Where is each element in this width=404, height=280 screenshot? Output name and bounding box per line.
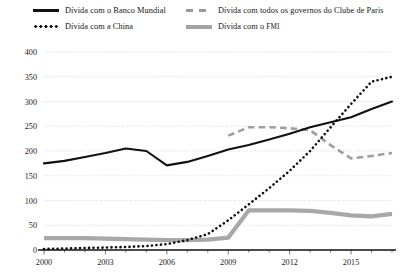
- y-tick-labels-group: 050100150200250300350400: [25, 48, 37, 255]
- gridlines-group: [44, 52, 392, 225]
- legend-label-banco-mundial: Dívida com o Banco Mundial: [65, 6, 166, 15]
- legend-label-fmi-text: Dívida com o: [218, 22, 266, 31]
- legend-item-clube-de-paris: Dívida com todos os governos do Clube de…: [186, 6, 384, 15]
- plot-area: 050100150200250300350400 200020032006200…: [0, 40, 404, 280]
- y-tick-label: 200: [25, 147, 37, 156]
- x-tick-label: 2009: [220, 258, 236, 267]
- y-tick-label: 300: [25, 98, 37, 107]
- plot-svg: 050100150200250300350400 200020032006200…: [0, 40, 404, 280]
- y-tick-label: 0: [33, 246, 37, 255]
- legend-label-fmi: Dívida com o FMI: [218, 22, 279, 32]
- y-tick-label: 250: [25, 122, 37, 131]
- legend-item-fmi: Dívida com o FMI: [186, 22, 279, 32]
- y-tick-label: 350: [25, 73, 37, 82]
- x-tick-label: 2015: [343, 258, 359, 267]
- dotted-line-swatch: [33, 25, 59, 28]
- y-tick-label: 400: [25, 48, 37, 57]
- solid-line-swatch: [33, 9, 59, 12]
- y-tick-label: 150: [25, 172, 37, 181]
- dashed-line-swatch: [186, 9, 212, 12]
- series-line-clube-de-paris: [228, 127, 392, 158]
- x-tick-label: 2000: [36, 258, 52, 267]
- legend-label-clube-de-paris: Dívida com todos os governos do Clube de…: [218, 6, 384, 15]
- series-group: [44, 77, 392, 249]
- legend-label-china: Dívida com a China: [65, 22, 133, 31]
- x-tick-labels-group: 200020032006200920122015: [36, 258, 359, 267]
- legend-item-banco-mundial: Dívida com o Banco Mundial: [33, 6, 166, 15]
- chart-legend: Dívida com o Banco Mundial Dívida com a …: [0, 4, 404, 40]
- series-line-banco-mundial: [44, 102, 392, 166]
- y-tick-label: 50: [29, 221, 37, 230]
- x-tick-label: 2012: [281, 258, 297, 267]
- y-tick-label: 100: [25, 197, 37, 206]
- legend-label-fmi-abbr: FMI: [266, 23, 279, 31]
- series-line-china: [44, 77, 392, 249]
- debt-line-chart: Dívida com o Banco Mundial Dívida com a …: [0, 0, 404, 280]
- thick-line-swatch: [186, 25, 212, 29]
- legend-item-china: Dívida com a China: [33, 22, 133, 31]
- x-tick-label: 2003: [97, 258, 113, 267]
- x-tick-label: 2006: [159, 258, 175, 267]
